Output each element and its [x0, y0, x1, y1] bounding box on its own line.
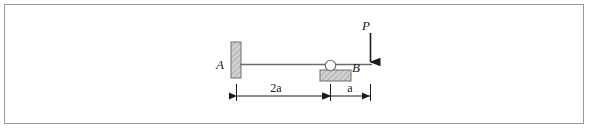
beam-diagram-figure: A B P 2a a — [0, 0, 590, 130]
roller-support — [320, 60, 351, 81]
label-load-p: P — [361, 18, 370, 33]
dimension-label-a: a — [347, 81, 353, 95]
label-support-a: A — [215, 57, 224, 72]
fixed-wall-support — [231, 42, 241, 78]
diagram-canvas: A B P 2a a — [0, 0, 590, 130]
dimension-label-2a: 2a — [270, 81, 282, 95]
label-support-b: B — [352, 60, 360, 75]
